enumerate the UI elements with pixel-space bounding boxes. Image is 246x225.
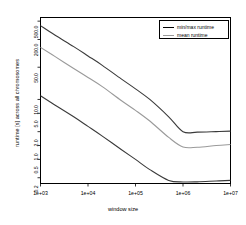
legend-label-minmax: min/max runtime [177,24,214,31]
series-line-max-runtime [41,26,231,133]
chart-legend: min/max runtime mean runtime [159,20,229,39]
x-tick-label: 1e+03 [33,190,48,196]
data-series-group [41,26,231,182]
y-tick-label: 50.0 [32,67,40,89]
x-tick-label: 1e+05 [128,190,143,196]
legend-line-swatch-mean [163,35,174,36]
axis-ticks-group [38,21,231,186]
legend-item-minmax-runtime: min/max runtime [163,24,225,31]
x-tick-label: 1e+04 [81,190,96,196]
series-line-min-runtime [41,96,231,182]
x-tick-label: 1e+07 [223,190,238,196]
legend-label-mean: mean runtime [177,32,208,39]
legend-item-mean-runtime: mean runtime [163,32,225,39]
y-tick-label: 500.0 [32,21,40,43]
x-tick-label: 1e+06 [176,190,191,196]
x-axis-title: window size [0,206,246,212]
y-tick-label: 10.0 [32,99,40,121]
runtime-vs-window-size-chart: 0.20.51.02.05.010.050.0200.0500.0 1e+031… [0,0,246,225]
y-axis-title: runtime [s] across all chromosomes [14,48,20,158]
series-line-mean-runtime [41,47,231,147]
legend-line-swatch-minmax [163,27,174,28]
